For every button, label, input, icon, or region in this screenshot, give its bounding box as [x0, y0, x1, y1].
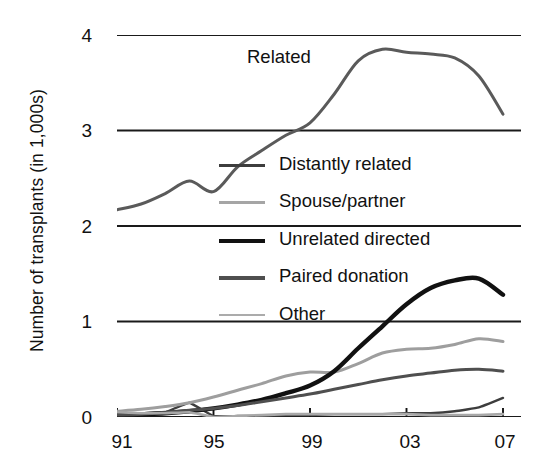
legend-label-unrelated-directed: Unrelated directed	[279, 228, 430, 250]
legend-item-other: Other	[219, 300, 479, 337]
legend-item-distantly-related: Distantly related	[219, 150, 479, 187]
chart-legend: Distantly related Spouse/partner Unrelat…	[219, 150, 479, 337]
legend-item-unrelated-directed: Unrelated directed	[219, 225, 479, 262]
x-tick-label-99: 99	[282, 432, 342, 451]
legend-label-paired-donation: Paired donation	[279, 265, 409, 287]
legend-label-distantly-related: Distantly related	[279, 153, 412, 175]
legend-item-spouse-partner: Spouse/partner	[219, 187, 479, 224]
y-axis-title: Number of transplants (in 1,000s)	[27, 21, 48, 421]
legend-swatch-distantly-related	[219, 164, 265, 167]
y-tick-label-3: 3	[62, 121, 92, 140]
series-label-related: Related	[247, 46, 311, 68]
legend-swatch-spouse-partner	[219, 201, 265, 204]
x-tick-label-07: 07	[475, 432, 535, 451]
x-tick-label-95: 95	[184, 432, 244, 451]
y-tick-label-2: 2	[62, 217, 92, 236]
chart-figure: Number of transplants (in 1,000s) 4 3 2 …	[0, 0, 536, 468]
y-tick-label-1: 1	[62, 312, 92, 331]
series-line-spouse-partner	[117, 339, 503, 412]
legend-swatch-other	[219, 314, 265, 316]
x-tick-label-03: 03	[380, 432, 440, 451]
legend-label-spouse-partner: Spouse/partner	[279, 190, 406, 212]
legend-item-paired-donation: Paired donation	[219, 262, 479, 299]
legend-swatch-unrelated-directed	[219, 239, 265, 244]
legend-swatch-paired-donation	[219, 276, 265, 279]
legend-label-other: Other	[279, 303, 325, 325]
y-tick-label-0: 0	[62, 408, 92, 427]
x-tick-label-91: 91	[92, 432, 152, 451]
y-tick-label-4: 4	[62, 26, 92, 45]
